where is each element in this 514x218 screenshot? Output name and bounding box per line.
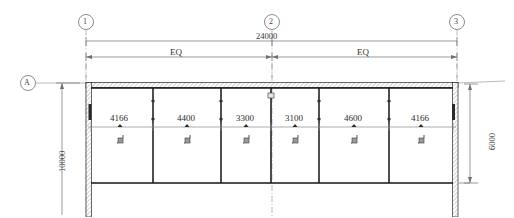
room-tick-1 <box>118 124 123 127</box>
column-center <box>268 93 274 98</box>
room-tick-2 <box>185 124 190 127</box>
interior-partitions <box>153 88 389 183</box>
partition-tick-4b <box>318 118 321 120</box>
eq-label-right: EQ <box>357 48 369 57</box>
dim-arrow-6000-top <box>468 84 472 90</box>
grid-line-A-right <box>458 81 505 83</box>
room-tick-5 <box>352 124 357 127</box>
dim-arrow-10000-top <box>60 83 64 89</box>
column-right <box>452 104 455 120</box>
overall-dimension-label: 24000 <box>256 32 277 41</box>
grid-bubble-A-label: A <box>24 79 30 87</box>
grid-bubble-2-label: 2 <box>269 18 273 26</box>
door-swing-icon-4 <box>292 135 298 143</box>
exterior-wall-top <box>86 83 458 88</box>
bay-label-4: 3100 <box>285 114 303 123</box>
door-swing-icon-1 <box>117 135 123 143</box>
door-swing-icon-3 <box>243 135 249 143</box>
partition-tick-1b <box>152 118 155 120</box>
column-left <box>89 104 92 120</box>
left-vertical-dimension-label: 10000 <box>58 151 67 172</box>
dim-arrow-eq-3 <box>272 55 278 59</box>
partition-tick-1a <box>152 100 155 102</box>
right-vertical-dimension <box>459 84 478 183</box>
grid-bubble-3-label: 3 <box>454 18 458 26</box>
partition-tick-2b <box>220 118 223 120</box>
exterior-wall-right <box>453 83 459 218</box>
exterior-wall-left <box>86 83 92 218</box>
right-vertical-dimension-label: 6000 <box>488 133 497 150</box>
grid-bubble-1-label: 1 <box>83 18 87 26</box>
door-swing-icon-2 <box>184 135 190 143</box>
eq-dimension-line <box>86 53 457 61</box>
room-tick-4 <box>293 124 298 127</box>
cad-drawing-canvas[interactable]: 1 2 3 A 24000 EQ EQ 10000 6000 4166 4400… <box>0 0 514 217</box>
bay-label-6: 4166 <box>411 114 429 123</box>
left-vertical-dimension <box>56 83 80 215</box>
bay-label-5: 4600 <box>344 114 362 123</box>
dim-arrow-eq-2 <box>266 55 272 59</box>
door-swing-icon-6 <box>418 135 424 143</box>
bay-label-1: 4166 <box>110 114 128 123</box>
door-swing-icon-5 <box>351 135 357 143</box>
bay-label-2: 4400 <box>177 114 195 123</box>
grid-bubble-circles <box>21 15 465 91</box>
room-tick-6 <box>419 124 424 127</box>
partition-tick-2a <box>220 100 223 102</box>
dim-arrow-eq-4 <box>451 55 457 59</box>
bay-label-3: 3300 <box>236 114 254 123</box>
room-tick-3 <box>244 124 249 127</box>
eq-label-left: EQ <box>170 48 182 57</box>
partition-tick-4a <box>318 100 321 102</box>
partition-tick-5a <box>388 100 391 102</box>
dim-arrow-6000-bottom <box>468 177 472 183</box>
dim-arrow-eq-1 <box>86 55 92 59</box>
partition-tick-5b <box>388 118 391 120</box>
